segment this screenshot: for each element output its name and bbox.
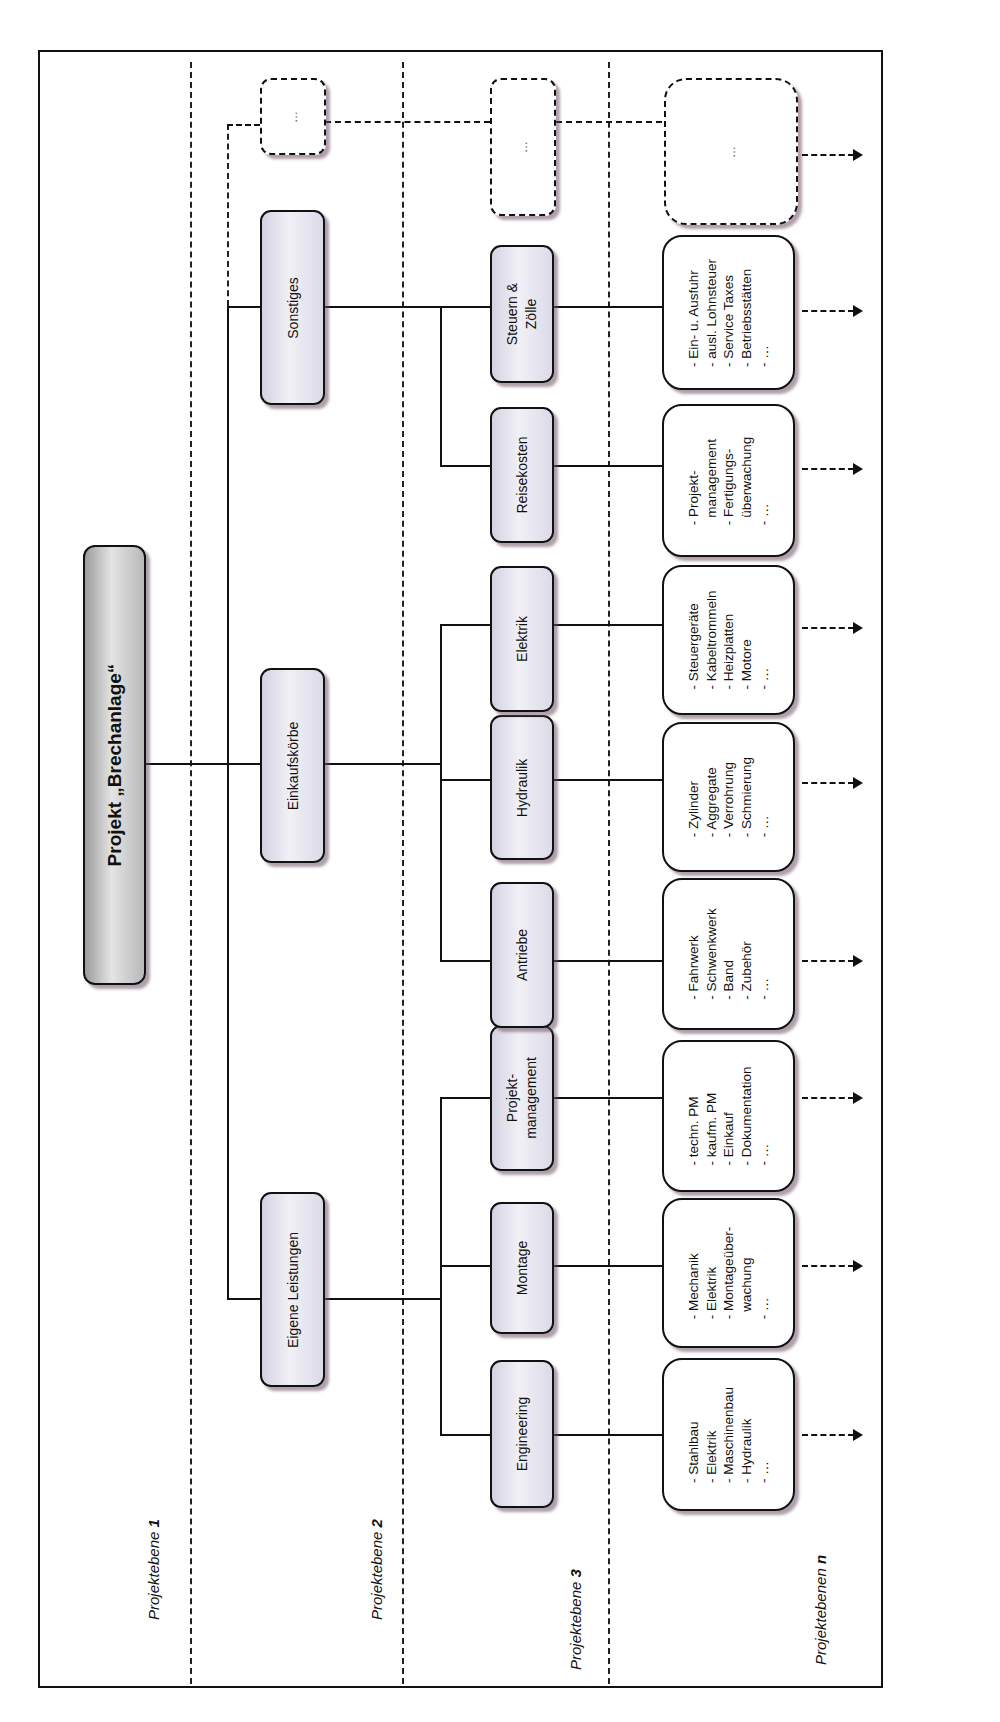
detail-list: - Zylinder - Aggregate - Verrohrung - Sc… [685, 757, 773, 837]
l2-label: Engineering [513, 1397, 532, 1472]
l2-node-montage[interactable]: Montage [490, 1202, 554, 1334]
l2-node-reisekosten[interactable]: Reisekosten [490, 407, 554, 543]
arrow-right-icon [853, 1260, 863, 1272]
root-label: Projekt „Brechanlage“ [104, 664, 126, 867]
connector-l1-sonstiges [227, 306, 260, 308]
l1-label: Sonstiges [285, 277, 301, 338]
connector-l3-2 [553, 1097, 662, 1099]
l3-node-hydraulik[interactable]: - Zylinder - Aggregate - Verrohrung - Sc… [662, 722, 795, 872]
detail-list: - Fahrwerk - Schwenkwerk - Band - Zubehö… [685, 908, 773, 1000]
connector-l3-6 [553, 465, 662, 467]
l2-label: Reisekosten [513, 436, 532, 513]
connector-projektmgmt [440, 1097, 490, 1099]
connector-l1-spine [227, 306, 229, 1299]
l2-node-elektrik[interactable]: Elektrik [490, 566, 554, 712]
l3-node-antriebe[interactable]: - Fahrwerk - Schwenkwerk - Band - Zubehö… [662, 878, 795, 1030]
l3-node-projektmanagement[interactable]: - techn. PM - kaufm. PM - Einkauf - Doku… [662, 1040, 795, 1192]
continuation-arrow-line [802, 960, 854, 962]
connector-l3-4 [553, 779, 662, 781]
arrow-right-icon [853, 149, 863, 161]
continuation-arrow-line [802, 782, 854, 784]
level-label-1: Projektebene 1 [145, 1519, 162, 1620]
root-node[interactable]: Projekt „Brechanlage“ [83, 545, 146, 985]
l3-node-elektrik[interactable]: - Steuergeräte - Kabeltrommeln - Heizpla… [662, 565, 795, 715]
level-divider-1 [190, 62, 192, 1684]
l3-node-engineering[interactable]: - Stahlbau - Elektrik - Maschinenbau - H… [662, 1358, 795, 1511]
continuation-arrow-line [802, 1434, 854, 1436]
l2-label: Steuern & Zölle [503, 283, 541, 345]
l2-label: Projekt- management [503, 1057, 541, 1139]
connector-montage [440, 1265, 490, 1267]
arrow-right-icon [853, 463, 863, 475]
connector-hydraulik [440, 779, 490, 781]
connector-ghost-l3 [556, 121, 662, 123]
connector-sonstiges-out [325, 306, 490, 308]
l2-node-hydraulik[interactable]: Hydraulik [490, 715, 554, 860]
connector-l3-5 [553, 624, 662, 626]
l2-label: Montage [513, 1241, 532, 1295]
connector-ghost-l2 [325, 121, 490, 123]
connector-elektrik [440, 624, 490, 626]
arrow-right-icon [853, 305, 863, 317]
ellipsis-label: … [516, 141, 530, 153]
l2-node-projektmanagement[interactable]: Projekt- management [490, 1025, 554, 1171]
connector-l1-einkauf [227, 763, 260, 765]
connector-engineering [440, 1434, 490, 1436]
continuation-arrow-line [802, 154, 854, 156]
arrow-right-icon [853, 777, 863, 789]
connector-l3-1 [553, 1265, 662, 1267]
connector-sonstiges-spine [440, 306, 442, 466]
arrow-right-icon [853, 622, 863, 634]
l3-node-montage[interactable]: - Mechanik - Elektrik - Montageüber- wac… [662, 1198, 795, 1348]
level-label-3: Projektebene 3 [567, 1569, 584, 1670]
continuation-arrow-line [802, 627, 854, 629]
detail-list: - techn. PM - kaufm. PM - Einkauf - Doku… [685, 1066, 773, 1165]
connector-l3-7 [553, 306, 662, 308]
l2-label: Elektrik [513, 616, 532, 662]
ellipsis-label: … [286, 111, 300, 123]
l1-node-more[interactable]: … [260, 78, 326, 155]
detail-list: - Projekt- management - Fertigungs- über… [685, 436, 773, 525]
connector-eigene-out [325, 1298, 440, 1300]
connector-einkauf-out [325, 763, 440, 765]
l2-label: Hydraulik [513, 758, 532, 816]
l1-label: Einkaufskörbe [285, 721, 301, 810]
level-label-n: Projektebenen n [812, 1555, 829, 1665]
detail-list: - Ein- u. Ausfuhr - ausl. Lohnsteuer - S… [685, 258, 773, 366]
continuation-arrow-line [802, 1097, 854, 1099]
l2-node-antriebe[interactable]: Antriebe [490, 882, 554, 1028]
l2-node-engineering[interactable]: Engineering [490, 1360, 554, 1508]
connector-root [146, 763, 228, 765]
detail-list: - Mechanik - Elektrik - Montageüber- wac… [685, 1227, 773, 1319]
arrow-right-icon [853, 955, 863, 967]
l1-label: Eigene Leistungen [285, 1232, 301, 1348]
detail-list: - Steuergeräte - Kabeltrommeln - Heizpla… [685, 590, 773, 689]
connector-l3-3 [553, 960, 662, 962]
level-label-2: Projektebene 2 [368, 1519, 385, 1620]
l1-node-sonstiges[interactable]: Sonstiges [260, 210, 325, 405]
connector-reisekosten [440, 465, 490, 467]
l1-node-eigene-leistungen[interactable]: Eigene Leistungen [260, 1192, 325, 1387]
connector-einkauf-spine [440, 624, 442, 961]
connector-l1-ghost-h [227, 124, 260, 126]
l3-node-steuern-zoelle[interactable]: - Ein- u. Ausfuhr - ausl. Lohnsteuer - S… [662, 235, 795, 390]
l2-node-steuern-zoelle[interactable]: Steuern & Zölle [490, 245, 554, 383]
l3-node-reisekosten[interactable]: - Projekt- management - Fertigungs- über… [662, 404, 795, 557]
arrow-right-icon [853, 1429, 863, 1441]
l1-node-einkaufskoerbe[interactable]: Einkaufskörbe [260, 668, 325, 863]
l3-ghost-ellipsis: … [664, 78, 798, 225]
l2-label: Antriebe [513, 929, 532, 981]
connector-l1-ghost-v [227, 124, 229, 306]
l2-node-more[interactable]: … [490, 78, 556, 216]
arrow-right-icon [853, 1092, 863, 1104]
continuation-arrow-line [802, 1265, 854, 1267]
continuation-arrow-line [802, 468, 854, 470]
connector-l1-eigene [227, 1298, 260, 1300]
connector-l3-0 [553, 1434, 662, 1436]
detail-list: - Stahlbau - Elektrik - Maschinenbau - H… [685, 1386, 773, 1482]
continuation-arrow-line [802, 310, 854, 312]
connector-antriebe [440, 960, 490, 962]
